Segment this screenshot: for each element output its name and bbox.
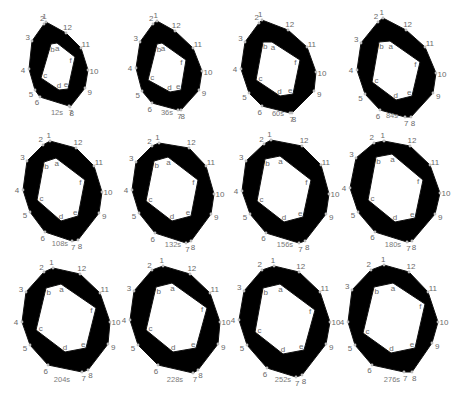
inner-vertex-label: e [288, 86, 293, 95]
outer-vertex-label: 11 [426, 39, 435, 48]
outer-vertex-label: 1 [153, 11, 158, 20]
outer-vertex-label: 4 [234, 187, 239, 196]
inner-vertex-label: a [54, 159, 59, 168]
inner-vertex-label: e [186, 208, 191, 217]
outer-vertex-label: 8 [302, 377, 307, 386]
inner-vertex-label: b [156, 287, 161, 296]
inner-vertex-label: c [371, 194, 375, 203]
inner-vertex-label: b [379, 42, 384, 51]
inner-vertex-label: f [294, 58, 297, 67]
outer-vertex-label: 6 [35, 98, 40, 107]
outer-vertex-label: 2 [366, 260, 371, 269]
outer-vertex-label: 8 [70, 109, 75, 118]
inner-vertex-label: b [157, 45, 162, 54]
ring-shape [350, 141, 440, 242]
inner-vertex-label: f [201, 305, 204, 314]
outer-vertex-label: 4 [349, 66, 354, 75]
inner-vertex-label: e [407, 88, 412, 97]
inner-vertex-label: d [389, 344, 393, 353]
time-label: 276s [384, 375, 401, 384]
outer-vertex-label: 5 [23, 211, 28, 220]
outer-vertex-label: 9 [436, 92, 441, 101]
outer-vertex-label: 1 [267, 130, 272, 139]
outer-vertex-label: 4 [15, 186, 20, 195]
outer-vertex-label: 9 [202, 89, 207, 98]
inner-vertex-label: a [161, 44, 166, 53]
outer-vertex-label: 7 [185, 245, 190, 254]
outer-vertex-label: 9 [214, 213, 219, 222]
outer-vertex-label: 6 [263, 370, 268, 379]
time-label: 60s [272, 109, 284, 118]
outer-vertex-label: 1 [155, 133, 160, 142]
outer-vertex-label: 2 [147, 261, 152, 270]
outer-vertex-label: 6 [41, 234, 46, 243]
outer-vertex-label: 1 [381, 131, 386, 140]
vertex-marker [354, 344, 357, 347]
vertex-marker [198, 89, 201, 92]
ring-shape [239, 266, 330, 377]
ring-panel-204s: 123456789101112abcdef204s [14, 258, 121, 384]
inner-vertex-label: d [171, 343, 175, 352]
vertex-marker [431, 342, 434, 345]
ring-panel-132s: 123456789101112abcdef132s [124, 133, 225, 254]
vertex-marker [313, 90, 316, 93]
vertex-marker [364, 93, 367, 96]
inner-vertex-label: e [410, 210, 415, 219]
inner-vertex-label: a [166, 158, 171, 167]
outer-vertex-label: 1 [271, 256, 276, 265]
inner-vertex-label: f [419, 302, 422, 311]
outer-vertex-label: 8 [412, 374, 417, 383]
vertex-marker [240, 68, 243, 71]
ring-shape [242, 140, 329, 243]
time-label: 252s [275, 375, 292, 384]
outer-vertex-label: 10 [318, 69, 327, 78]
outer-vertex-label: 3 [127, 284, 132, 293]
vertex-marker [360, 42, 363, 45]
outer-vertex-label: 3 [26, 33, 31, 42]
outer-vertex-label: 8 [88, 371, 93, 380]
inner-vertex-label: e [64, 80, 69, 89]
outer-vertex-label: 3 [238, 34, 243, 43]
vertex-marker [28, 68, 31, 71]
outer-vertex-label: 7 [193, 375, 198, 384]
outer-vertex-label: 7 [406, 244, 411, 253]
inner-vertex-label: d [282, 213, 286, 222]
outer-vertex-label: 1 [49, 258, 54, 267]
vertex-marker [138, 212, 141, 215]
vertex-marker [238, 319, 241, 322]
vertex-marker [29, 211, 32, 214]
outer-vertex-label: 9 [221, 343, 226, 352]
outer-vertex-label: 6 [376, 112, 381, 121]
ring-panel-12s: 123456789101112abcdef12s [21, 12, 99, 118]
outer-vertex-label: 6 [150, 235, 155, 244]
outer-vertex-label: 6 [154, 367, 159, 376]
outer-vertex-label: 3 [345, 282, 350, 291]
inner-vertex-label: c [374, 76, 378, 85]
ring-shape [241, 20, 316, 113]
inner-vertex-label: e [299, 342, 304, 351]
outer-vertex-label: 5 [348, 344, 353, 353]
inner-vertex-label: c [258, 326, 262, 335]
outer-vertex-label: 6 [370, 233, 375, 242]
inner-vertex-label: e [176, 82, 181, 91]
inner-vertex-label: a [391, 284, 396, 293]
outer-vertex-label: 4 [342, 184, 347, 193]
outer-vertex-label: 7 [403, 374, 408, 383]
ring-panel-252s: 123456789101112abcdef252s [231, 256, 341, 388]
outer-vertex-label: 6 [44, 367, 49, 376]
outer-vertex-label: 6 [261, 234, 266, 243]
time-label: 12s [51, 108, 63, 117]
ring-shape [23, 141, 102, 241]
outer-vertex-label: 9 [88, 88, 93, 97]
outer-vertex-label: 3 [349, 150, 354, 159]
outer-vertex-label: 11 [101, 285, 110, 294]
vertex-marker [249, 213, 252, 216]
outer-vertex-label: 3 [19, 285, 24, 294]
outer-vertex-label: 7 [295, 379, 300, 388]
outer-vertex-label: 4 [14, 318, 19, 327]
inner-vertex-label: a [170, 284, 175, 293]
inner-vertex-label: b [154, 161, 159, 170]
outer-vertex-label: 12 [187, 138, 196, 147]
outer-vertex-label: 10 [216, 190, 225, 199]
inner-vertex-label: a [389, 42, 394, 51]
